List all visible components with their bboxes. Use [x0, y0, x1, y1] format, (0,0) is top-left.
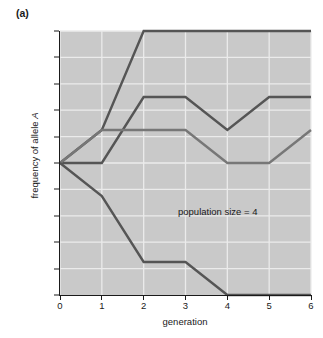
series-lines	[60, 31, 311, 295]
x-tick-label: 3	[174, 301, 198, 311]
y-tick-mark	[54, 110, 59, 111]
x-tick-mark	[143, 295, 144, 300]
x-tick-mark	[227, 295, 228, 300]
x-tick-mark	[60, 295, 61, 300]
y-axis-label-allele: A	[29, 112, 40, 118]
x-tick-mark	[101, 295, 102, 300]
y-tick-mark	[54, 163, 59, 164]
y-tick-mark	[54, 215, 59, 216]
panel-label: (a)	[16, 7, 29, 19]
x-tick-label: 0	[48, 301, 72, 311]
series-line-replicate-4-loss	[60, 163, 311, 295]
y-tick-mark	[54, 268, 59, 269]
y-tick-mark	[54, 295, 59, 296]
x-tick-label: 6	[299, 301, 323, 311]
x-tick-mark	[185, 295, 186, 300]
allele-frequency-drift-figure: (a) frequency of allele A generation 0.0…	[0, 0, 323, 338]
y-axis-spine	[59, 31, 60, 296]
y-tick-mark	[54, 31, 59, 32]
plot-area: 0.00.10.20.30.40.50.60.70.80.91.0 012345…	[60, 31, 311, 295]
x-tick-mark	[311, 295, 312, 300]
y-tick-mark	[54, 57, 59, 58]
x-tick-label: 1	[90, 301, 114, 311]
y-axis-label-text: frequency of allele	[29, 119, 40, 199]
y-tick-mark	[54, 242, 59, 243]
y-tick-mark	[54, 136, 59, 137]
x-tick-label: 5	[257, 301, 281, 311]
y-tick-mark	[54, 189, 59, 190]
x-tick-mark	[269, 295, 270, 300]
x-axis-label: generation	[60, 316, 310, 327]
y-axis-label: frequency of allele A	[29, 76, 40, 236]
series-line-replicate-3-middle	[60, 130, 311, 163]
population-size-annotation: population size = 4	[178, 206, 258, 217]
y-tick-mark	[54, 83, 59, 84]
x-tick-label: 2	[132, 301, 156, 311]
x-tick-label: 4	[215, 301, 239, 311]
